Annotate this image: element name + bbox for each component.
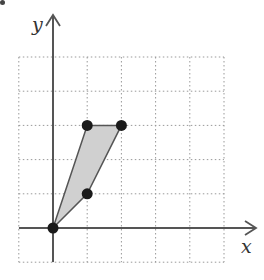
y-axis-label: y — [31, 13, 43, 35]
shaded-quadrilateral — [53, 125, 121, 228]
vertex-point — [116, 120, 127, 131]
coordinate-plane-diagram: x y — [0, 0, 264, 280]
vertex-point — [82, 188, 93, 199]
vertex-point — [82, 120, 93, 131]
x-axis-label: x — [241, 235, 252, 257]
vertex-point — [48, 223, 59, 234]
